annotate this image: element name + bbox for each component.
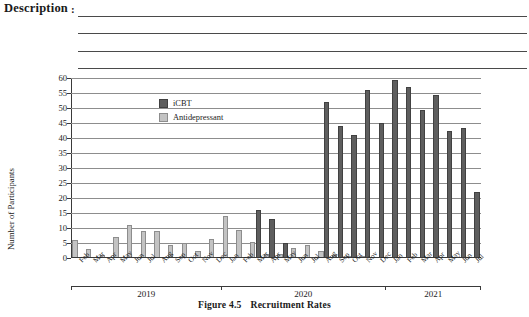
figure-number: Figure 4.5 <box>198 299 241 310</box>
y-tick-label-20: 20 <box>58 193 67 203</box>
legend-item-icbt: iCBT <box>159 98 223 109</box>
chart-legend: iCBT Antidepressant <box>159 98 223 126</box>
year-group-label-2019: 2019 <box>71 289 221 299</box>
figure-caption: Figure 4.5Recruitment Rates <box>0 299 529 310</box>
y-tick-label-55: 55 <box>58 88 67 98</box>
y-tick-label-35: 35 <box>58 148 67 158</box>
bar-antidepressant-2019-Aug <box>154 231 159 258</box>
y-tick-label-45: 45 <box>58 118 67 128</box>
legend-item-antidepressant: Antidepressant <box>159 112 223 123</box>
x-axis-tick-labels: FebMarAprMayJunJulAugSepOctNovDecJanFebM… <box>71 258 481 286</box>
bar-icbt-2021-Jan <box>392 80 397 259</box>
blank-rule-2 <box>78 33 527 34</box>
year-group-line-2021 <box>385 286 481 287</box>
blank-rule-3 <box>78 51 527 52</box>
description-header: Description : <box>0 0 529 68</box>
y-tick-label-60: 60 <box>58 73 67 83</box>
bar-icbt-2020-Mar <box>256 210 261 258</box>
description-colon: : <box>71 3 75 15</box>
year-group-line-2019 <box>71 286 221 287</box>
y-tick-label-50: 50 <box>58 103 67 113</box>
recruitment-rates-chart: Number of Participants 05101520253035404… <box>0 68 529 300</box>
bar-icbt-2020-Nov <box>365 90 370 258</box>
y-tick-label-10: 10 <box>58 223 67 233</box>
y-tick-label-40: 40 <box>58 133 67 143</box>
year-group-label-2021: 2021 <box>385 289 481 299</box>
y-axis-title: Number of Participants <box>6 168 16 250</box>
bar-icbt-2020-Aug <box>324 102 329 258</box>
plot-area: 051015202530354045505560 iCBT Antidepres… <box>71 78 481 258</box>
bar-antidepressant-2019-Feb <box>72 240 77 258</box>
bar-icbt-2021-Apr <box>433 95 438 259</box>
bar-icbt-2021-May <box>447 131 452 259</box>
legend-label-antidepressant: Antidepressant <box>173 113 223 122</box>
bar-icbt-2021-Jun <box>461 128 466 259</box>
bar-series-layer <box>71 78 481 258</box>
y-tick-label-15: 15 <box>58 208 67 218</box>
y-tick-label-30: 30 <box>58 163 67 173</box>
bar-icbt-2020-Oct <box>351 135 356 258</box>
legend-swatch-icon-icbt <box>159 99 168 108</box>
year-group-line-2020 <box>221 286 385 287</box>
legend-label-icbt: iCBT <box>173 99 192 108</box>
bar-icbt-2021-Feb <box>406 87 411 258</box>
figure-title: Recruitment Rates <box>251 299 331 310</box>
bar-icbt-2020-Sep <box>338 126 343 258</box>
blank-rule-1 <box>78 16 527 17</box>
description-label: Description <box>4 1 68 16</box>
legend-swatch-icon-antidepressant <box>159 113 168 122</box>
y-tick-label-25: 25 <box>58 178 67 188</box>
bar-icbt-2021-Jul <box>474 192 479 258</box>
bar-icbt-2020-Dec <box>379 123 384 258</box>
year-group-label-2020: 2020 <box>221 289 385 299</box>
bar-icbt-2021-Mar <box>420 110 425 259</box>
